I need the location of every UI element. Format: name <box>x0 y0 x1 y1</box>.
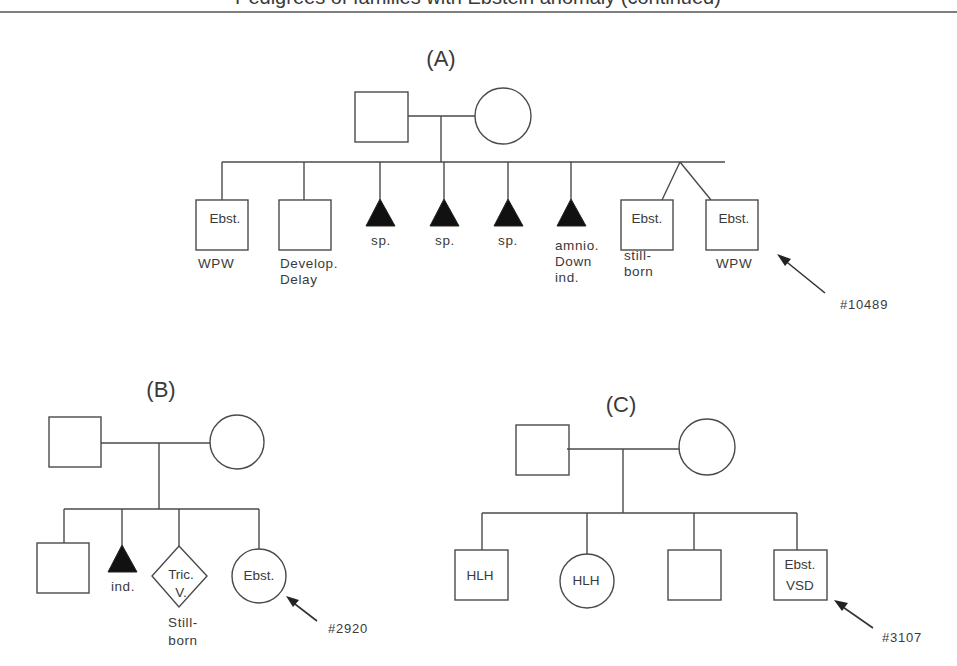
pedigree-a-father-square <box>355 92 408 142</box>
child-a6-note-1: amnio. <box>555 238 599 253</box>
child-a6-note-2: Down <box>555 254 592 269</box>
pedigree-a: (A) Ebst. WPW Develop. Delay sp. sp. sp.… <box>196 46 888 312</box>
child-a3-note: sp. <box>371 233 391 248</box>
child-a7-note-2: born <box>624 264 653 279</box>
child-a1-note: WPW <box>198 256 234 271</box>
child-a1-inside-label: Ebst. <box>210 211 241 226</box>
pedigree-b: (B) ind. Tric. V. Still- born Ebst. #292… <box>37 377 368 648</box>
child-b3-note-1: Still- <box>168 615 198 630</box>
child-b4-inside-label: Ebst. <box>244 568 275 583</box>
proband-arrow-a <box>783 259 825 293</box>
child-a8-inside-label: Ebst. <box>719 211 750 226</box>
proband-id-b: #2920 <box>328 621 368 636</box>
child-b3-note-2: born <box>168 633 197 648</box>
child-b2-note: ind. <box>111 579 135 594</box>
pedigree-a-label: (A) <box>426 46 455 71</box>
child-a5-note: sp. <box>498 233 518 248</box>
twin-line-left <box>662 162 680 200</box>
proband-arrow-c <box>840 605 873 628</box>
child-a7-inside-label: Ebst. <box>632 211 663 226</box>
pedigree-c-mother-circle <box>679 419 735 475</box>
child-c4-inside-label-1: Ebst. <box>785 557 816 572</box>
child-c1-inside-label: HLH <box>466 568 493 583</box>
pedigree-c-father-square <box>516 425 569 475</box>
pedigree-b-mother-circle <box>210 415 264 469</box>
child-a2-note-2: Delay <box>280 272 318 287</box>
child-b1-square <box>37 543 89 593</box>
child-a7-note-1: still- <box>624 248 652 263</box>
child-c3-square <box>668 550 721 600</box>
child-a6-pregnancy-loss-triangle <box>557 199 586 226</box>
child-a4-note: sp. <box>435 233 455 248</box>
child-a3-pregnancy-loss-triangle <box>366 199 395 226</box>
child-c2-inside-label: HLH <box>572 573 599 588</box>
twin-line-right <box>680 162 711 200</box>
child-b2-pregnancy-loss-triangle <box>108 545 137 572</box>
pedigree-b-father-square <box>49 417 101 467</box>
pedigree-c: (C) HLH HLH Ebst. VSD #3107 <box>455 392 922 645</box>
child-a8-note: WPW <box>716 256 752 271</box>
child-a5-pregnancy-loss-triangle <box>494 199 523 226</box>
pedigree-a-mother-circle <box>475 88 531 144</box>
pedigree-figure: Pedigrees of families with Ebstein anoma… <box>0 0 957 666</box>
child-b3-inside-label-1: Tric. <box>168 567 194 582</box>
proband-id-c: #3107 <box>882 630 922 645</box>
child-b3-inside-label-2: V. <box>175 585 187 600</box>
child-a2-note-1: Develop. <box>280 256 338 271</box>
pedigree-c-label: (C) <box>606 392 637 417</box>
figure-title-clipped: Pedigrees of families with Ebstein anoma… <box>235 0 721 8</box>
child-a2-square <box>279 200 331 250</box>
child-a4-pregnancy-loss-triangle <box>430 199 459 226</box>
child-a6-note-3: ind. <box>555 270 579 285</box>
pedigree-b-label: (B) <box>146 377 175 402</box>
child-c4-inside-label-2: VSD <box>786 578 814 593</box>
proband-id-a: #10489 <box>840 297 888 312</box>
